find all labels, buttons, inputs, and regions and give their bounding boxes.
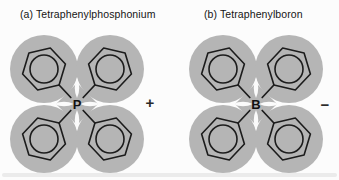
page-edge-artifact <box>2 173 337 177</box>
central-atom-label-a: P <box>73 97 82 112</box>
molecule-b-tetraphenylboron: B <box>189 34 324 174</box>
charge-sign-plus: + <box>143 94 157 111</box>
figure-tetraphenyl-ions: (a) Tetraphenylphosphonium P + (b) Tetra… <box>0 0 339 180</box>
panel-b-title: (b) Tetraphenylboron <box>204 8 303 20</box>
panel-a-title: (a) Tetraphenylphosphonium <box>20 8 156 20</box>
molecule-a-tetraphenylphosphonium: P <box>10 34 145 174</box>
central-atom-label-b: B <box>251 97 260 112</box>
charge-sign-minus: − <box>318 96 332 113</box>
